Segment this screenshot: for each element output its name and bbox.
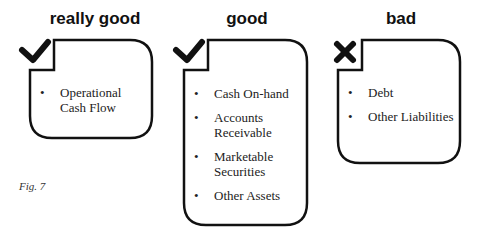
column-title-good: good — [184, 9, 310, 29]
list-item: Cash On-hand — [192, 86, 304, 101]
x-icon — [337, 44, 353, 60]
figure-caption: Fig. 7 — [19, 180, 45, 192]
column-title-bad: bad — [338, 9, 464, 29]
check-icon — [176, 42, 202, 60]
list-item: Other Assets — [192, 188, 304, 203]
check-icon — [22, 42, 48, 60]
list-item: Debt — [346, 85, 456, 100]
list-item: Accounts Receivable — [192, 110, 304, 140]
really-good-list: Operational Cash Flow — [38, 85, 148, 124]
bad-list: Debt Other Liabilities — [346, 85, 456, 133]
list-item: Marketable Securities — [192, 149, 304, 179]
list-item: Other Liabilities — [346, 109, 456, 124]
column-title-really-good: really good — [30, 9, 160, 29]
list-item: Operational Cash Flow — [38, 85, 148, 115]
good-list: Cash On-hand Accounts Receivable Marketa… — [192, 86, 304, 212]
